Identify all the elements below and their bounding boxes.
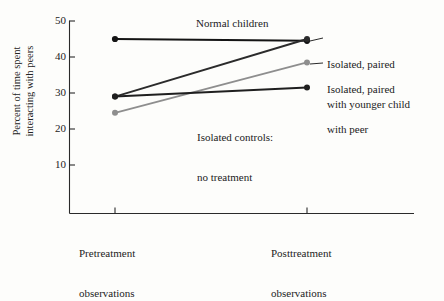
data-point-isolated-controls-pre	[112, 94, 118, 100]
x-axis-label-posttreatment-line2: observations	[271, 287, 332, 300]
label-leaders	[310, 38, 323, 64]
y-axis-title: Percent of time spent interacting with p…	[10, 16, 36, 166]
leader-line-younger-child	[310, 38, 323, 41]
y-tick-label-40: 40	[44, 50, 66, 63]
data-point-isolated-peer-post	[304, 59, 310, 65]
y-tick-label-50: 50	[44, 14, 66, 27]
series-label-isolated-controls: Isolated controls: no treatment	[197, 104, 273, 211]
y-tick-label-30: 30	[44, 86, 66, 99]
y-tick-label-20: 20	[44, 122, 66, 135]
data-point-isolated-peer-pre	[112, 110, 118, 116]
series-label-isolated-controls-line2: no treatment	[197, 171, 273, 184]
series-label-normal-children: Normal children	[196, 17, 268, 30]
x-axis-label-pretreatment: Pretreatment observations	[79, 220, 135, 301]
series-normal-children	[112, 36, 310, 44]
data-point-normal-children-pre	[112, 36, 118, 42]
x-axis-label-posttreatment-line1: Posttreatment	[271, 247, 332, 260]
series-label-isolated-peer: Isolated, paired with peer	[327, 56, 395, 163]
x-axis-label-posttreatment: Posttreatment observations	[271, 220, 332, 301]
y-axis-title-line2: interacting with peers	[23, 16, 36, 166]
series-label-isolated-peer-line1: Isolated, paired	[327, 83, 395, 96]
series-isolated-younger-child	[112, 36, 310, 100]
series-label-isolated-controls-line1: Isolated controls:	[197, 131, 273, 144]
y-tick-label-10: 10	[44, 158, 66, 171]
y-axis-title-line1: Percent of time spent	[10, 16, 23, 166]
x-axis-label-pretreatment-line1: Pretreatment	[79, 247, 135, 260]
x-axis-label-pretreatment-line2: observations	[79, 287, 135, 300]
data-point-isolated-younger-child-post	[304, 36, 310, 42]
data-point-isolated-controls-post	[304, 85, 310, 91]
series-line-normal-children	[115, 39, 307, 41]
series-label-isolated-peer-line2: with peer	[327, 123, 395, 136]
leader-line-peer	[310, 63, 323, 64]
